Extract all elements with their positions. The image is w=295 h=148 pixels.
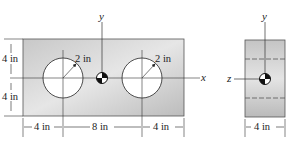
height-bottom-label: 4 in — [2, 91, 19, 102]
front-view: x y 2 in 2 in 4 in 4 in 4 in 8 in 4 i — [2, 10, 206, 137]
y-axis-label: y — [98, 10, 104, 22]
side-y-axis-label: y — [261, 10, 267, 22]
diagram-canvas: x y 2 in 2 in 4 in 4 in 4 in 8 in 4 i — [0, 0, 295, 148]
height-top-label: 4 in — [2, 53, 19, 64]
hole-radius-label-left: 2 in — [75, 53, 92, 64]
width-right-label: 4 in — [153, 121, 170, 132]
centroid-icon — [97, 73, 108, 84]
x-axis-label: x — [200, 71, 206, 83]
width-middle-label: 8 in — [92, 121, 109, 132]
hole-radius-label-right: 2 in — [155, 53, 172, 64]
side-view: y z 4 in — [226, 10, 285, 137]
side-width-label: 4 in — [254, 121, 271, 132]
z-axis-label: z — [226, 72, 232, 84]
side-centroid-icon — [260, 74, 271, 85]
width-left-label: 4 in — [34, 121, 51, 132]
